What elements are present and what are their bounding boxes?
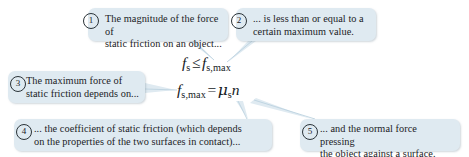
eq1-operator: ≤	[190, 54, 202, 71]
eq2-operator: =	[206, 81, 218, 98]
eq2-lhs-subscript: s,max	[181, 89, 206, 100]
tail-callout-3-line	[145, 89, 177, 90]
eq2-coefficient-symbol: μ	[218, 81, 228, 99]
callout-3: The maximum force of static friction dep…	[8, 71, 145, 103]
callout-4-label: ... the coefficient of static friction (…	[34, 122, 242, 148]
tail-callout-5-line	[254, 100, 315, 119]
callout-3-number: 3	[10, 76, 26, 92]
tail-callout-4	[236, 101, 248, 119]
callout-3-label: The maximum force of static friction dep…	[26, 74, 139, 100]
callout-1-label: The magnitude of the force of static fri…	[105, 12, 222, 51]
callout-4: ... the coefficient of static friction (…	[14, 119, 272, 151]
eq2-normal-force-symbol: n	[232, 81, 240, 98]
friction-equation-diagram: The magnitude of the force of static fri…	[0, 0, 469, 157]
callout-1: The magnitude of the force of static fri…	[88, 8, 228, 41]
callout-2-number: 2	[231, 13, 247, 29]
callout-5-label: ... and the normal force pressing the ob…	[320, 122, 454, 157]
callout-1-number: 1	[83, 13, 99, 29]
tail-callout-3	[145, 83, 176, 93]
equation-inequality: fs≤fs,max	[182, 54, 231, 73]
tail-callout-5	[250, 98, 312, 119]
callout-4-number: 4	[16, 124, 32, 140]
callout-2: ... is less than or equal to a certain m…	[236, 8, 376, 41]
eq1-rhs-subscript: s,max	[206, 62, 231, 73]
equation-max-static-friction: fs,max=μsn	[177, 81, 240, 100]
tail-callout-2	[228, 41, 256, 62]
tail-callout-4-line	[238, 101, 247, 119]
callout-2-label: ... is less than or equal to a certain m…	[253, 12, 364, 38]
callout-5: ... and the normal force pressing the ob…	[300, 119, 460, 151]
callout-5-number: 5	[302, 124, 318, 140]
